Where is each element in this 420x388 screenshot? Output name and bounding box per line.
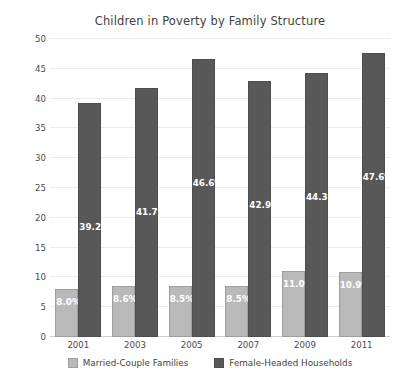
chart-container: Children in Poverty by Family Structure … (0, 0, 420, 388)
bar-group: 10.9%47.6% (339, 39, 385, 337)
bar[interactable]: 8.5% (225, 286, 248, 337)
y-axis-tick-label: 35 (35, 123, 46, 133)
bar-value-label: 39.2% (79, 222, 100, 232)
bar-group: 8.5%46.6% (169, 39, 215, 337)
bar[interactable]: 47.6% (362, 53, 385, 337)
bar-value-label: 8.0% (56, 297, 77, 307)
legend-swatch-icon (68, 358, 78, 368)
bar[interactable]: 8.5% (169, 286, 192, 337)
y-axis-tick-label: 10 (35, 272, 46, 282)
x-axis-tick-label: 2001 (67, 340, 89, 350)
y-axis-tick-label: 45 (35, 64, 46, 74)
y-axis-tick-label: 30 (35, 153, 46, 163)
bar-group: 11.0%44.3% (282, 39, 328, 337)
legend-label: Female-Headed Households (229, 358, 352, 368)
bar[interactable]: 44.3% (305, 73, 328, 337)
legend-item[interactable]: Married-Couple Families (68, 358, 189, 368)
bar-value-label: 42.9% (249, 200, 270, 210)
y-axis-tick-label: 50 (35, 34, 46, 44)
y-axis-tick-label: 0 (41, 332, 46, 342)
x-axis: 200120032005200720092011 (50, 340, 390, 356)
bar-group: 8.5%42.9% (225, 39, 271, 337)
x-axis-tick-label: 2003 (124, 340, 146, 350)
x-axis-tick-label: 2011 (351, 340, 373, 350)
y-axis-tick-label: 25 (35, 183, 46, 193)
x-axis-tick-label: 2005 (181, 340, 203, 350)
bar-value-label: 8.6% (113, 294, 134, 304)
bar-value-label: 44.3% (306, 192, 327, 202)
bar-value-label: 47.6% (363, 172, 384, 182)
bar-value-label: 46.6% (193, 178, 214, 188)
plot-area: 8.0%39.2%8.6%41.7%8.5%46.6%8.5%42.9%11.0… (50, 39, 390, 337)
bar[interactable]: 41.7% (135, 88, 158, 337)
bar[interactable]: 11.0% (282, 271, 305, 337)
bar-group: 8.0%39.2% (55, 39, 101, 337)
x-axis-tick-label: 2007 (237, 340, 259, 350)
bar[interactable]: 42.9% (248, 81, 271, 337)
bar[interactable]: 46.6% (192, 59, 215, 337)
y-axis-tick-label: 20 (35, 213, 46, 223)
legend-item[interactable]: Female-Headed Households (214, 358, 352, 368)
y-axis-tick-label: 15 (35, 243, 46, 253)
legend-label: Married-Couple Families (83, 358, 189, 368)
bar-group: 8.6%41.7% (112, 39, 158, 337)
bar-value-label: 8.5% (226, 294, 247, 304)
bar-value-label: 8.5% (170, 294, 191, 304)
bar-value-label: 41.7% (136, 207, 157, 217)
y-axis: 05101520253035404550 (24, 39, 46, 337)
bar-value-label: 11.0% (283, 279, 304, 289)
bar[interactable]: 39.2% (78, 103, 101, 337)
bar-value-label: 10.9% (340, 280, 361, 290)
bar[interactable]: 8.0% (55, 289, 78, 337)
x-axis-tick-label: 2009 (294, 340, 316, 350)
y-axis-tick-label: 5 (41, 302, 46, 312)
chart-legend: Married-Couple FamiliesFemale-Headed Hou… (0, 358, 420, 368)
legend-swatch-icon (214, 358, 224, 368)
bar[interactable]: 10.9% (339, 272, 362, 337)
bar[interactable]: 8.6% (112, 286, 135, 337)
chart-title: Children in Poverty by Family Structure (0, 14, 420, 28)
bars-layer: 8.0%39.2%8.6%41.7%8.5%46.6%8.5%42.9%11.0… (50, 39, 390, 337)
y-axis-tick-label: 40 (35, 94, 46, 104)
